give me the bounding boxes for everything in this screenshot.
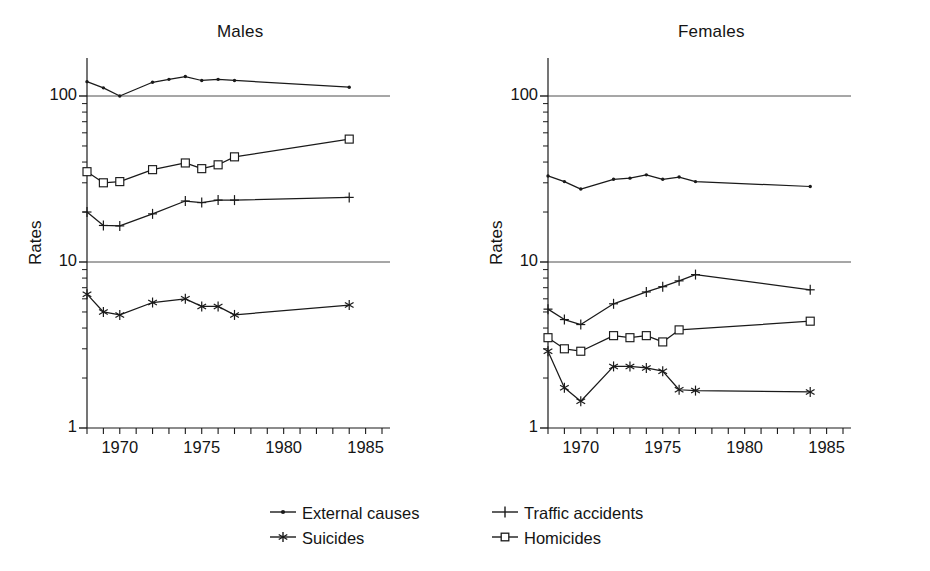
dot-icon: [268, 502, 298, 516]
series-suicides: [83, 289, 354, 320]
y-tick-label-females-100: 100: [492, 85, 538, 104]
marker-dot: [694, 180, 697, 183]
marker-dot: [184, 75, 187, 78]
marker-square: [149, 166, 157, 174]
legend-label-homicides: Homicides: [524, 529, 601, 547]
legend-label-traffic-accidents: Traffic accidents: [524, 504, 643, 522]
series-traffic-accidents: [544, 270, 815, 330]
marker-square: [214, 161, 222, 169]
legend-item-suicides[interactable]: Suicides: [268, 525, 364, 549]
marker-dot: [579, 187, 582, 190]
y-tick-label-females-1: 1: [492, 417, 538, 436]
x-tick-label-males-1985: 1985: [336, 438, 396, 457]
series-external-causes: [85, 75, 351, 98]
marker-square: [675, 326, 683, 334]
figure-root: Males Females Rates Rates External cause…: [0, 0, 930, 571]
marker-dot: [563, 180, 566, 183]
marker-dot: [628, 176, 631, 179]
y-tick-label-males-1: 1: [31, 417, 77, 436]
legend-item-homicides[interactable]: Homicides: [490, 525, 601, 549]
marker-asterisk: [560, 383, 569, 393]
legend-item-external-causes[interactable]: External causes: [268, 500, 419, 524]
x-tick-label-females-1970: 1970: [551, 438, 611, 457]
marker-square: [198, 165, 206, 173]
panel-females: [540, 58, 851, 434]
marker-square: [99, 179, 107, 187]
legend-item-traffic-accidents[interactable]: Traffic accidents: [490, 500, 643, 524]
marker-dot: [85, 80, 88, 83]
marker-asterisk: [544, 346, 553, 356]
plus-icon: [490, 502, 520, 516]
series-homicides: [83, 135, 353, 187]
legend: External causes Suicides: [268, 500, 688, 556]
marker-dot: [151, 81, 154, 84]
x-tick-label-females-1980: 1980: [715, 438, 775, 457]
x-tick-label-males-1980: 1980: [254, 438, 314, 457]
marker-dot: [809, 185, 812, 188]
marker-square: [83, 168, 91, 176]
marker-dot: [645, 173, 648, 176]
marker-square: [659, 338, 667, 346]
marker-square: [181, 159, 189, 167]
marker-dot: [612, 178, 615, 181]
marker-square: [806, 317, 814, 325]
marker-square: [231, 153, 239, 161]
marker-dot: [200, 79, 203, 82]
marker-dot: [677, 175, 680, 178]
marker-dot: [233, 79, 236, 82]
y-tick-label-males-100: 100: [31, 85, 77, 104]
y-tick-label-females-10: 10: [492, 251, 538, 270]
marker-dot: [167, 78, 170, 81]
asterisk-icon: [268, 527, 298, 541]
marker-dot: [661, 178, 664, 181]
x-tick-label-females-1975: 1975: [633, 438, 693, 457]
series-traffic-accidents: [83, 192, 354, 230]
marker-square: [642, 332, 650, 340]
marker-square: [626, 334, 634, 342]
x-tick-label-males-1975: 1975: [172, 438, 232, 457]
legend-label-external-causes: External causes: [302, 504, 419, 522]
y-tick-label-males-10: 10: [31, 251, 77, 270]
marker-dot: [118, 94, 121, 97]
marker-dot: [348, 85, 351, 88]
x-tick-label-males-1970: 1970: [90, 438, 150, 457]
panel-males: [79, 58, 390, 434]
legend-label-suicides: Suicides: [302, 529, 364, 547]
marker-square: [610, 332, 618, 340]
marker-square: [560, 345, 568, 353]
marker-dot: [102, 86, 105, 89]
open-square-icon: [490, 527, 520, 541]
marker-square: [116, 178, 124, 186]
series-external-causes: [546, 173, 812, 191]
marker-dot: [546, 174, 549, 177]
x-tick-label-females-1985: 1985: [797, 438, 857, 457]
marker-square: [577, 347, 585, 355]
marker-square: [544, 334, 552, 342]
marker-dot: [216, 78, 219, 81]
marker-square: [345, 135, 353, 143]
plot-canvas: [0, 0, 930, 571]
